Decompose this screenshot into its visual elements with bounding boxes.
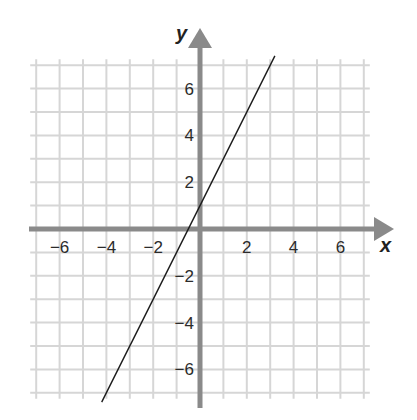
- y-tick-label: −2: [175, 267, 194, 286]
- x-tick-label: 4: [289, 238, 298, 257]
- y-tick-label: 2: [185, 173, 194, 192]
- y-axis-label: y: [175, 22, 188, 44]
- y-tick-label: 6: [185, 80, 194, 99]
- y-tick-label: −4: [175, 314, 194, 333]
- x-tick-label: −4: [97, 238, 116, 257]
- x-tick-label: 2: [242, 238, 251, 257]
- coordinate-plane: −6−4−2246642−2−4−6 x y: [0, 0, 417, 420]
- y-tick-label: −6: [175, 360, 194, 379]
- x-axis-label: x: [379, 234, 392, 256]
- x-tick-label: 6: [336, 238, 345, 257]
- y-axis-arrow-icon: [188, 28, 212, 48]
- x-tick-label: −2: [144, 238, 163, 257]
- y-tick-label: 4: [185, 126, 194, 145]
- x-tick-label: −6: [50, 238, 69, 257]
